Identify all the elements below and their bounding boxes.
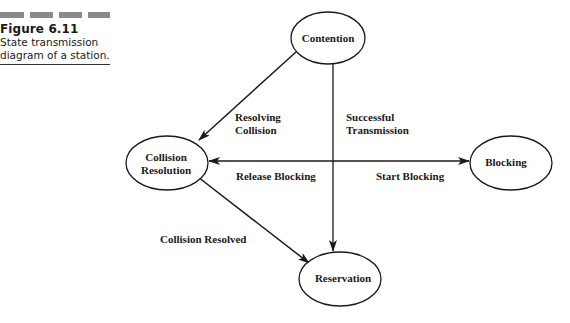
edge-label-line-2: Transmission [346,124,409,136]
edge-collision-resolved: Collision Resolved [160,177,309,263]
edge-blocking-bidirectional: Release Blocking Start Blocking [209,161,469,182]
edge-label-release-blocking: Release Blocking [236,170,316,182]
edge-label-line-2: Collision [235,124,277,136]
edge-successful-transmission: Successful Transmission [333,64,409,251]
arrow-line [198,177,309,263]
edge-label-line-1: Resolving [235,111,281,123]
state-ellipse [126,136,208,190]
edge-label: Collision Resolved [160,233,246,245]
state-label-line-1: Collision [145,151,187,163]
state-reservation: Reservation [299,252,381,306]
state-contention: Contention [291,12,365,64]
state-blocking: Blocking [470,136,552,190]
edge-label-start-blocking: Start Blocking [376,170,445,182]
edge-resolving-collision: Resolving Collision [199,52,296,140]
state-label: Reservation [315,272,371,284]
edge-label-line-1: Successful [346,111,394,123]
state-label: Contention [302,32,355,44]
state-label: Blocking [485,156,527,168]
state-collision-resolution: Collision Resolution [126,136,208,190]
state-label-line-2: Resolution [141,164,191,176]
state-diagram: Resolving Collision Successful Transmiss… [0,0,570,323]
